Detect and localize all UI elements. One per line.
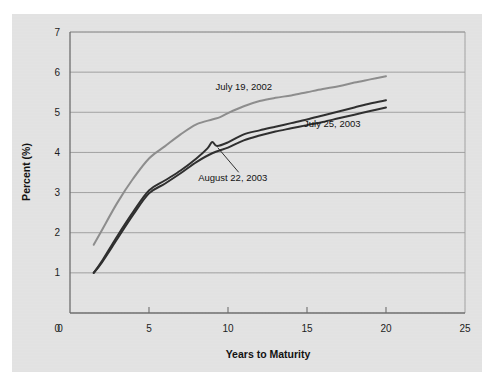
y-tick-label-6: 6 — [54, 67, 60, 78]
gridlines — [70, 32, 465, 313]
series-label-july-25-2003: July 25, 2003 — [304, 118, 361, 129]
series-label-august-22-2003: August 22, 2003 — [198, 172, 267, 183]
x-tick-label-10: 10 — [222, 323, 234, 334]
x-tick-label-15: 15 — [301, 323, 313, 334]
yield-curve-chart: 01234567 0510152025 July 19, 2002July 25… — [12, 14, 482, 372]
y-tick-label-3: 3 — [54, 187, 60, 198]
series-label-july-19-2002: July 19, 2002 — [216, 81, 273, 92]
x-axis-tick-labels: 0510152025 — [57, 323, 471, 334]
y-tick-label-7: 7 — [54, 27, 60, 38]
chart-page: 01234567 0510152025 July 19, 2002July 25… — [0, 0, 495, 384]
x-tickmarks — [149, 307, 386, 313]
y-tick-label-5: 5 — [54, 107, 60, 118]
y-axis-title: Percent (%) — [20, 143, 32, 201]
x-axis-title: Years to Maturity — [226, 348, 311, 360]
chart-panel: 01234567 0510152025 July 19, 2002July 25… — [12, 14, 482, 372]
series-line-july-19-2002 — [94, 76, 386, 245]
plot-frame — [70, 32, 465, 313]
y-tick-label-4: 4 — [54, 147, 60, 158]
y-tick-label-1: 1 — [54, 267, 60, 278]
x-tick-label-0: 0 — [57, 323, 63, 334]
annotation-leader-line — [218, 148, 239, 173]
series-line-august-22-2003 — [94, 107, 386, 272]
x-tick-label-5: 5 — [146, 323, 152, 334]
x-tick-label-25: 25 — [459, 323, 471, 334]
y-tick-label-2: 2 — [54, 227, 60, 238]
y-axis-tick-labels: 01234567 — [54, 27, 60, 334]
x-tick-label-20: 20 — [380, 323, 392, 334]
